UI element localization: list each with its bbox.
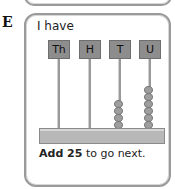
bead-units bbox=[144, 100, 153, 108]
bead-units bbox=[144, 93, 153, 101]
instruction-rest: to go next. bbox=[82, 147, 145, 160]
abacus-base bbox=[39, 128, 165, 144]
abacus-card: I have Th H T U Add 25 to go next. bbox=[24, 13, 171, 187]
previous-card-edge bbox=[24, 0, 172, 6]
bead-units bbox=[144, 114, 153, 122]
bead-units bbox=[144, 107, 153, 115]
column-label-tens: T bbox=[109, 40, 131, 59]
bead-tens bbox=[114, 107, 123, 115]
column-label-hundreds: H bbox=[79, 40, 101, 59]
rod-thousands bbox=[57, 58, 60, 128]
instruction-text: Add 25 to go next. bbox=[39, 147, 146, 160]
bead-units bbox=[144, 86, 153, 94]
column-label-units: U bbox=[139, 40, 161, 59]
card-heading: I have bbox=[37, 19, 74, 33]
bead-tens bbox=[114, 114, 123, 122]
instruction-bold: Add 25 bbox=[39, 147, 82, 160]
bead-tens bbox=[114, 100, 123, 108]
column-label-thousands: Th bbox=[48, 40, 70, 59]
rod-hundreds bbox=[88, 58, 91, 128]
section-letter: E bbox=[2, 14, 13, 30]
